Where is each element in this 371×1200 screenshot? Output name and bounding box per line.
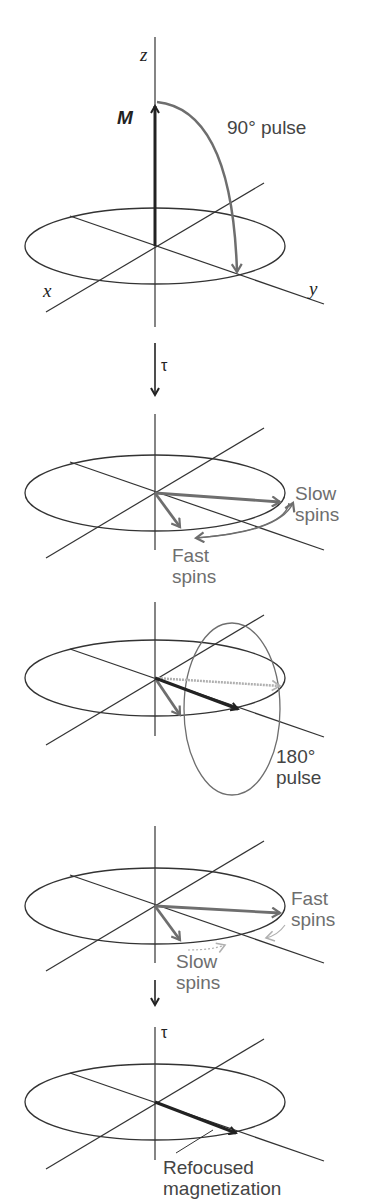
tau-label-1: τ bbox=[161, 355, 167, 376]
slow-label-2-line-2: spins bbox=[176, 972, 220, 993]
fast-label-line-2: spins bbox=[172, 566, 216, 587]
x-axis-label: x bbox=[43, 280, 51, 301]
slow-spins-label: Slow spins bbox=[295, 483, 339, 525]
leader-line bbox=[176, 1130, 213, 1153]
180-label-line-2: pulse bbox=[276, 767, 321, 788]
slow-label-line-2: spins bbox=[295, 504, 339, 525]
magnetization-label: M bbox=[117, 107, 133, 128]
slow-label-2-line-1: Slow bbox=[176, 951, 220, 972]
panel-5-refocused bbox=[25, 1027, 324, 1169]
fast-label-line-1: Fast bbox=[172, 545, 216, 566]
z-axis-label: z bbox=[140, 44, 147, 65]
tau-label-2: τ bbox=[161, 1022, 167, 1043]
fast-label-2-line-2: spins bbox=[291, 909, 335, 930]
fast-spins-label-2: Fast spins bbox=[291, 888, 335, 930]
panel-2-dephasing bbox=[25, 414, 324, 558]
fast-spins-label: Fast spins bbox=[172, 545, 216, 587]
180-pulse-label: 180° pulse bbox=[276, 746, 321, 788]
refocused-label-line-2: magnetization bbox=[163, 1178, 281, 1199]
slow-label-line-1: Slow bbox=[295, 483, 339, 504]
panel-4-rephasing bbox=[25, 826, 324, 971]
fast-label-2-line-1: Fast bbox=[291, 888, 335, 909]
90-pulse-label: 90° pulse bbox=[227, 117, 306, 138]
180-label-line-1: 180° bbox=[276, 746, 321, 767]
slow-spins-label-2: Slow spins bbox=[176, 951, 220, 993]
refocused-magnetization-label: Refocused magnetization bbox=[163, 1157, 281, 1199]
refocused-label-line-1: Refocused bbox=[163, 1157, 281, 1178]
panel-1-90-pulse bbox=[25, 37, 324, 327]
y-axis-label: y bbox=[309, 278, 317, 299]
spin-echo-diagram bbox=[0, 0, 371, 1200]
